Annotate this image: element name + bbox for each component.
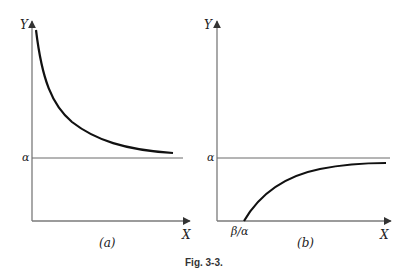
panel-b-y-axis-label: Y (204, 19, 212, 31)
figure-canvas (0, 0, 409, 275)
panel-a-caption: (a) (99, 237, 116, 249)
panel-a-y-axis-label: Y (20, 19, 28, 31)
panel-b-asymptote-label: α (207, 152, 214, 164)
panel-b-caption: (b) (297, 237, 314, 249)
panel-a-asymptote-label: α (22, 152, 29, 164)
panel-b-x-intercept-label: β/α (231, 226, 249, 238)
figure-caption: Fig. 3-3. (185, 257, 223, 268)
panel-a-decreasing-curve (36, 30, 173, 153)
panel-b (217, 21, 391, 221)
panel-a-x-axis-label: X (182, 229, 191, 241)
panel-b-increasing-curve (244, 163, 386, 221)
panel-b-x-axis-label: X (380, 229, 389, 241)
panel-a (32, 21, 190, 221)
